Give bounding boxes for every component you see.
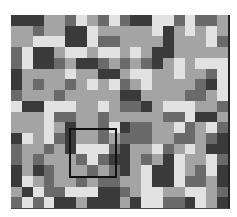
grid-cell[interactable]	[98, 15, 109, 26]
grid-cell[interactable]	[33, 90, 44, 101]
grid-cell[interactable]	[217, 15, 228, 26]
grid-cell[interactable]	[44, 144, 55, 155]
grid-cell[interactable]	[163, 187, 174, 198]
grid-cell[interactable]	[76, 79, 87, 90]
grid-cell[interactable]	[54, 101, 65, 112]
grid-cell[interactable]	[33, 36, 44, 47]
grid-cell[interactable]	[54, 79, 65, 90]
grid-cell[interactable]	[185, 101, 196, 112]
grid-cell[interactable]	[44, 122, 55, 133]
grid-cell[interactable]	[98, 47, 109, 58]
grid-cell[interactable]	[22, 58, 33, 69]
grid-cell[interactable]	[206, 112, 217, 123]
grid-cell[interactable]	[195, 197, 206, 208]
grid-cell[interactable]	[54, 90, 65, 101]
grid-cell[interactable]	[206, 187, 217, 198]
grid-cell[interactable]	[141, 36, 152, 47]
grid-cell[interactable]	[22, 15, 33, 26]
grid-cell[interactable]	[195, 176, 206, 187]
grid-cell[interactable]	[76, 15, 87, 26]
grid-cell[interactable]	[54, 122, 65, 133]
grid-cell[interactable]	[217, 165, 228, 176]
grid-cell[interactable]	[11, 176, 22, 187]
grid-cell[interactable]	[195, 36, 206, 47]
grid-cell[interactable]	[217, 58, 228, 69]
grid-cell[interactable]	[206, 69, 217, 80]
grid-cell[interactable]	[174, 79, 185, 90]
grid-cell[interactable]	[22, 197, 33, 208]
grid-cell[interactable]	[98, 90, 109, 101]
grid-cell[interactable]	[185, 69, 196, 80]
grid-cell[interactable]	[120, 197, 131, 208]
grid-cell[interactable]	[141, 197, 152, 208]
grid-cell[interactable]	[98, 101, 109, 112]
grid-cell[interactable]	[174, 165, 185, 176]
grid-cell[interactable]	[120, 122, 131, 133]
grid-cell[interactable]	[11, 122, 22, 133]
grid-cell[interactable]	[141, 15, 152, 26]
grid-cell[interactable]	[152, 197, 163, 208]
grid-cell[interactable]	[174, 122, 185, 133]
grid-cell[interactable]	[109, 197, 120, 208]
grid-cell[interactable]	[206, 58, 217, 69]
grid-cell[interactable]	[174, 90, 185, 101]
grid-cell[interactable]	[33, 176, 44, 187]
grid-cell[interactable]	[120, 133, 131, 144]
grid-cell[interactable]	[195, 90, 206, 101]
grid-cell[interactable]	[65, 69, 76, 80]
grid-cell[interactable]	[152, 26, 163, 37]
grid-cell[interactable]	[130, 69, 141, 80]
grid-cell[interactable]	[44, 101, 55, 112]
grid-cell[interactable]	[163, 165, 174, 176]
grid-cell[interactable]	[120, 144, 131, 155]
grid-cell[interactable]	[185, 90, 196, 101]
grid-cell[interactable]	[174, 197, 185, 208]
grid-cell[interactable]	[130, 101, 141, 112]
grid-cell[interactable]	[217, 144, 228, 155]
grid-cell[interactable]	[163, 154, 174, 165]
grid-cell[interactable]	[120, 79, 131, 90]
grid-cell[interactable]	[185, 112, 196, 123]
grid-cell[interactable]	[195, 122, 206, 133]
grid-cell[interactable]	[152, 187, 163, 198]
grid-cell[interactable]	[130, 36, 141, 47]
grid-cell[interactable]	[152, 58, 163, 69]
grid-cell[interactable]	[120, 154, 131, 165]
grid-cell[interactable]	[87, 26, 98, 37]
grid-cell[interactable]	[141, 122, 152, 133]
grid-cell[interactable]	[44, 133, 55, 144]
grid-cell[interactable]	[33, 26, 44, 37]
grid-cell[interactable]	[11, 112, 22, 123]
grid-cell[interactable]	[44, 176, 55, 187]
grid-cell[interactable]	[206, 122, 217, 133]
grid-cell[interactable]	[163, 197, 174, 208]
grid-cell[interactable]	[217, 36, 228, 47]
grid-cell[interactable]	[185, 122, 196, 133]
grid-cell[interactable]	[11, 58, 22, 69]
grid-cell[interactable]	[174, 15, 185, 26]
grid-cell[interactable]	[44, 47, 55, 58]
grid-cell[interactable]	[76, 47, 87, 58]
grid-cell[interactable]	[98, 112, 109, 123]
grid-cell[interactable]	[11, 47, 22, 58]
grid-cell[interactable]	[185, 144, 196, 155]
grid-cell[interactable]	[11, 165, 22, 176]
grid-cell[interactable]	[141, 154, 152, 165]
grid-cell[interactable]	[33, 79, 44, 90]
grid-cell[interactable]	[163, 36, 174, 47]
grid-cell[interactable]	[141, 165, 152, 176]
grid-cell[interactable]	[130, 144, 141, 155]
grid-cell[interactable]	[98, 26, 109, 37]
grid-cell[interactable]	[120, 69, 131, 80]
grid-cell[interactable]	[152, 176, 163, 187]
grid-cell[interactable]	[206, 79, 217, 90]
grid-cell[interactable]	[206, 176, 217, 187]
grid-cell[interactable]	[33, 154, 44, 165]
grid-cell[interactable]	[130, 176, 141, 187]
grid-cell[interactable]	[22, 154, 33, 165]
grid-cell[interactable]	[22, 144, 33, 155]
grid-cell[interactable]	[87, 79, 98, 90]
grid-cell[interactable]	[217, 122, 228, 133]
grid-cell[interactable]	[174, 58, 185, 69]
grid-cell[interactable]	[152, 112, 163, 123]
